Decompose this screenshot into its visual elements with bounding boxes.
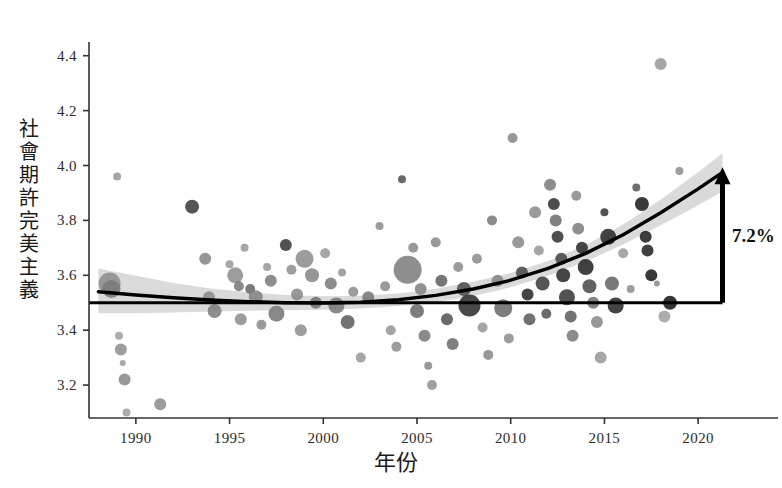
scatter-point <box>572 223 584 235</box>
y-axis-title-char-7: 義 <box>12 279 46 302</box>
scatter-point <box>268 306 284 322</box>
scatter-point <box>458 294 480 316</box>
y-axis-title-char-0: 社 <box>12 118 46 141</box>
y-axis-title-char-3: 許 <box>12 187 46 210</box>
scatter-point <box>655 58 667 70</box>
scatter-point <box>508 133 518 143</box>
scatter-point <box>120 360 126 366</box>
x-tick-label: 2010 <box>495 430 527 446</box>
scatter-point <box>418 330 430 342</box>
scatter-point <box>415 283 427 295</box>
scatter-point <box>154 398 166 410</box>
scatter-point <box>627 285 635 293</box>
scatter-point <box>226 260 234 268</box>
scatter-point <box>541 309 551 319</box>
scatter-point <box>265 275 277 287</box>
scatter-point <box>447 338 459 350</box>
scatter-point <box>386 325 396 335</box>
y-axis-title: 社會期許完美主義 <box>12 118 46 302</box>
scatter-point <box>348 287 358 297</box>
y-axis-title-char-4: 完 <box>12 210 46 233</box>
y-axis-title-char-1: 會 <box>12 141 46 164</box>
x-tick-label: 1995 <box>214 430 246 446</box>
scatter-point <box>424 362 432 370</box>
scatter-point <box>582 279 596 293</box>
y-axis-title-char-6: 主 <box>12 256 46 279</box>
scatter-point <box>280 239 292 251</box>
scatter-point <box>578 259 594 275</box>
y-tick-label: 3.4 <box>57 322 77 338</box>
scatter-point <box>185 200 199 214</box>
y-tick-label: 3.6 <box>57 267 77 283</box>
change-arrow-label: 7.2% <box>732 225 775 246</box>
scatter-point <box>441 313 453 325</box>
scatter-point <box>567 330 579 342</box>
scatter-point <box>305 268 319 282</box>
scatter-point <box>320 248 330 258</box>
scatter-point <box>119 374 131 386</box>
scatter-point <box>286 265 296 275</box>
x-tick-label: 2015 <box>589 430 621 446</box>
scatter-point <box>256 320 266 330</box>
y-tick-label: 3.8 <box>57 212 77 228</box>
scatter-point <box>487 215 497 225</box>
scatter-point <box>291 288 303 300</box>
scatter-point <box>548 198 560 210</box>
scatter-point <box>472 254 482 264</box>
scatter-point <box>356 353 366 363</box>
scatter-point <box>263 263 271 271</box>
scatter-point <box>635 197 649 211</box>
scatter-point <box>380 281 390 291</box>
scatter-point <box>325 278 337 290</box>
scatter-point <box>113 172 121 180</box>
y-tick-label: 4.4 <box>57 48 77 64</box>
scatter-point <box>427 380 437 390</box>
scatter-point <box>632 183 640 191</box>
scatter-point <box>391 342 401 352</box>
axes-group: 3.23.43.63.84.04.24.41990199520002005201… <box>57 42 778 446</box>
scatter-point <box>595 352 607 364</box>
scatter-point <box>453 262 463 272</box>
scatter-point <box>408 243 418 253</box>
scatter-point <box>658 310 670 322</box>
scatter-point <box>571 191 581 201</box>
y-tick-label: 4.2 <box>57 103 77 119</box>
scatter-point <box>115 343 127 355</box>
scatter-point <box>478 322 488 332</box>
scatter-point <box>534 246 544 256</box>
scatter-point <box>234 281 244 291</box>
scatter-point <box>431 237 441 247</box>
scatter-point <box>102 280 120 298</box>
scatter-point <box>654 281 660 287</box>
scatter-point <box>227 267 243 283</box>
scatter-point <box>115 332 123 340</box>
x-tick-label: 2000 <box>307 430 339 446</box>
scatter-point <box>591 316 603 328</box>
scatter-point <box>235 313 247 325</box>
x-tick-label: 2005 <box>401 430 433 446</box>
scatter-point <box>600 208 608 216</box>
scatter-point <box>608 297 624 313</box>
scatter-point <box>410 304 424 318</box>
scatter-point <box>328 297 344 313</box>
scatter-point <box>208 304 222 318</box>
scatter-point <box>523 313 535 325</box>
scatter-point <box>642 245 654 257</box>
scatter-point <box>675 167 683 175</box>
perfectionism-trend-chart: 社會期許完美主義 3.23.43.63.84.04.24.41990199520… <box>0 0 782 488</box>
annotations-group: 7.2% <box>732 225 775 246</box>
y-tick-label: 3.2 <box>57 377 77 393</box>
scatter-point <box>241 244 249 252</box>
scatter-point <box>605 277 619 291</box>
plot-canvas: 3.23.43.63.84.04.24.41990199520002005201… <box>0 0 782 488</box>
scatter-points-group <box>99 58 684 417</box>
scatter-point <box>199 253 211 265</box>
scatter-point <box>645 269 657 281</box>
y-axis-title-char-2: 期 <box>12 164 46 187</box>
scatter-point <box>640 231 652 243</box>
scatter-point <box>550 214 562 226</box>
scatter-point <box>504 333 514 343</box>
x-tick-label: 2020 <box>682 430 714 446</box>
scatter-point <box>483 350 493 360</box>
scatter-point <box>435 275 447 287</box>
